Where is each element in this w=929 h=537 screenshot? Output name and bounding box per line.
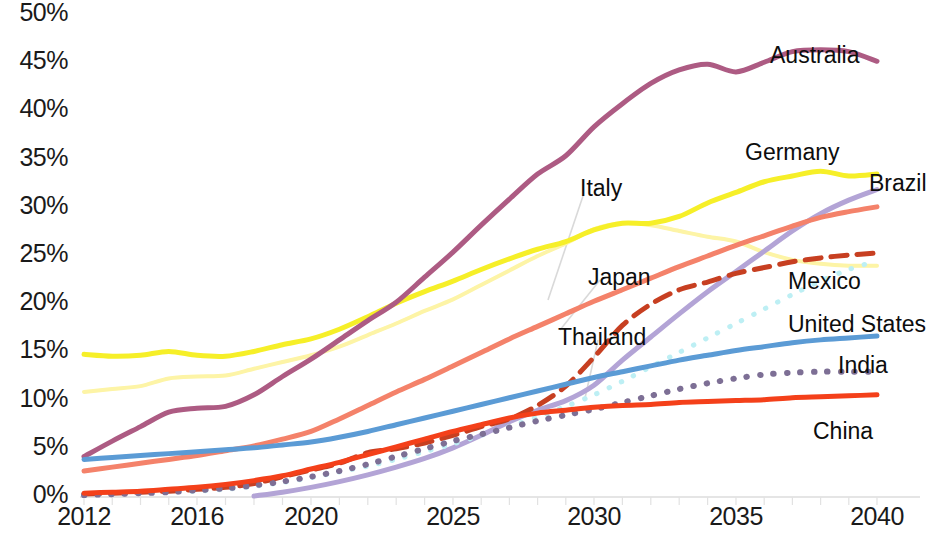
- line-chart: 50%45%40%35%30%25%20%15%10%5%0% 20122016…: [0, 0, 929, 537]
- series-label-united-states: United States: [788, 311, 926, 338]
- series-label-brazil: Brazil: [869, 170, 927, 197]
- series-label-china: China: [813, 418, 873, 445]
- series-label-thailand: Thailand: [558, 324, 646, 351]
- series-line-indiadotted: [84, 372, 877, 495]
- series-line-germany: [84, 171, 877, 356]
- series-label-india: India: [838, 352, 888, 379]
- series-line-thailand: [84, 207, 877, 471]
- label-leader-lines: [548, 196, 600, 398]
- series-lines: [84, 50, 877, 496]
- series-label-italy: Italy: [580, 175, 622, 202]
- series-line-japan: [84, 223, 877, 392]
- axis-lines: [80, 497, 920, 505]
- series-label-japan: Japan: [588, 264, 651, 291]
- series-label-australia: Australia: [770, 42, 859, 69]
- series-label-mexico: Mexico: [788, 268, 861, 295]
- series-label-germany: Germany: [745, 139, 840, 166]
